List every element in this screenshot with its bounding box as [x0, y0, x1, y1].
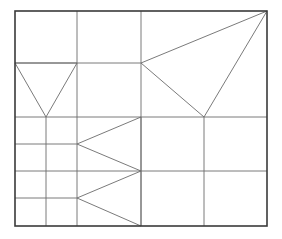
geometric-diagram — [0, 0, 282, 239]
wedge-upper — [77, 117, 141, 171]
triangle-right-large — [141, 11, 267, 117]
wedge-lower — [77, 171, 141, 226]
v-triangle-left — [15, 63, 77, 117]
